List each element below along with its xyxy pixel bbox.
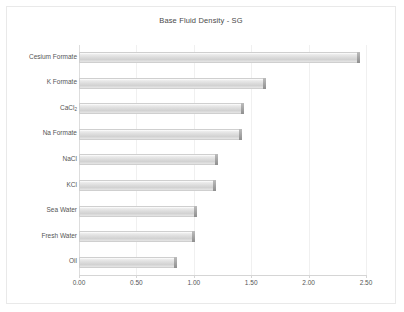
y-axis-label-na-formate: Na Formate	[11, 130, 77, 137]
x-tick-label: 2.50	[360, 279, 373, 286]
bar-row[interactable]	[79, 249, 366, 275]
x-tick-label: 0.00	[73, 279, 86, 286]
y-axis-label-sea-water: Sea Water	[11, 207, 77, 214]
bar-cacl2[interactable]	[79, 103, 244, 114]
bar-na-formate[interactable]	[79, 129, 242, 140]
bar-nacl[interactable]	[79, 154, 218, 165]
bar-sea-water[interactable]	[79, 206, 197, 217]
bar-row[interactable]	[79, 147, 366, 173]
bar-row[interactable]	[79, 45, 366, 71]
bar-fresh-water[interactable]	[79, 231, 195, 242]
y-axis-label-oil: Oil	[11, 258, 77, 265]
x-tick-label: 1.00	[187, 279, 200, 286]
bar-row[interactable]	[79, 173, 366, 199]
y-axis-category-labels: Cesium FormateK FormateCaCl2Na FormateNa…	[7, 45, 77, 275]
y-axis-label-cesium-formate: Cesium Formate	[11, 54, 77, 61]
x-tick-label: 1.50	[245, 279, 258, 286]
plot-area	[79, 45, 366, 275]
bar-cesium-formate[interactable]	[79, 52, 360, 63]
y-axis-label-cacl2: CaCl2	[11, 105, 77, 112]
y-axis-label-fresh-water: Fresh Water	[11, 233, 77, 240]
bar-row[interactable]	[79, 71, 366, 97]
x-tick-mark	[309, 275, 310, 278]
bar-kcl[interactable]	[79, 180, 216, 191]
x-tick-mark	[366, 275, 367, 278]
y-axis-label-k-formate: K Formate	[11, 79, 77, 86]
x-tick-mark	[194, 275, 195, 278]
gridline	[366, 45, 367, 275]
bar-row[interactable]	[79, 224, 366, 250]
y-axis-label-nacl: NaCl	[11, 156, 77, 163]
bar-oil[interactable]	[79, 257, 177, 268]
chart-container: Base Fluid Density - SG Cesium FormateK …	[6, 6, 396, 304]
x-tick-mark	[251, 275, 252, 278]
x-axis-line	[79, 275, 366, 276]
bar-row[interactable]	[79, 122, 366, 148]
x-tick-label: 0.50	[130, 279, 143, 286]
bar-row[interactable]	[79, 96, 366, 122]
x-tick-mark	[79, 275, 80, 278]
x-tick-label: 2.00	[302, 279, 315, 286]
bar-row[interactable]	[79, 198, 366, 224]
chart-title: Base Fluid Density - SG	[7, 16, 395, 25]
x-axis-tick-labels: 0.000.501.001.502.002.50	[79, 279, 366, 293]
x-tick-mark	[136, 275, 137, 278]
y-axis-label-kcl: KCl	[11, 182, 77, 189]
bar-series	[79, 45, 366, 275]
bar-k-formate[interactable]	[79, 78, 266, 89]
